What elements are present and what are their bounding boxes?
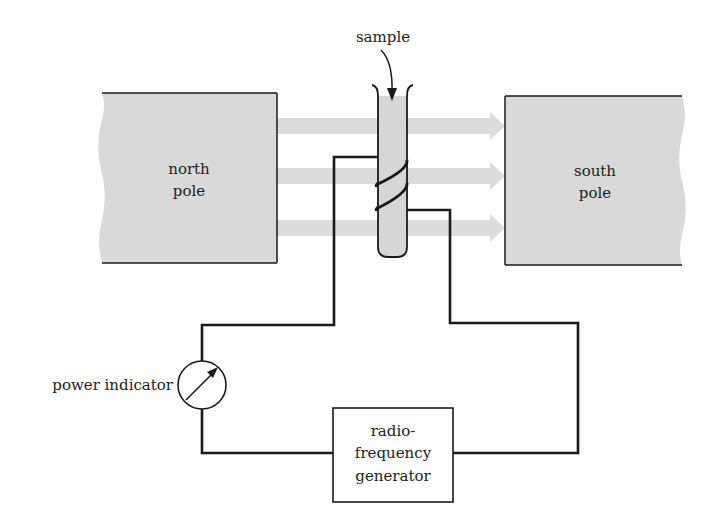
power-indicator-meter	[178, 361, 226, 409]
north-pole-label-line2: pole	[173, 182, 205, 200]
south-pole-magnet: south pole	[505, 96, 686, 265]
sample-pointer-arrow	[381, 50, 397, 101]
generator-label-line1: radio-	[371, 422, 416, 440]
nmr-diagram: north pole south pole sample power indic…	[0, 0, 712, 527]
north-pole-magnet: north pole	[98, 93, 277, 263]
south-pole-label-line2: pole	[579, 184, 611, 202]
generator-label-line3: generator	[355, 467, 431, 485]
sample-tube	[372, 85, 413, 257]
sample-label: sample	[356, 28, 410, 46]
rf-generator-box: radio- frequency generator	[333, 408, 453, 502]
north-pole-label-line1: north	[168, 160, 210, 178]
power-indicator-label: power indicator	[52, 376, 174, 394]
generator-label-line2: frequency	[355, 444, 432, 462]
south-pole-label-line1: south	[574, 162, 616, 180]
wire-left-lower	[202, 409, 333, 453]
